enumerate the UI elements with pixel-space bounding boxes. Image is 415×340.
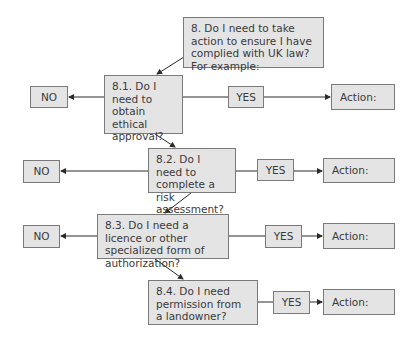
yes-label: YES [274,230,294,243]
yes-box-8-4: YES [273,291,310,314]
yes-label: YES [282,296,302,309]
action-box-8-4: Action: [323,289,395,315]
yes-label: YES [236,91,256,104]
yes-box-8-1: YES [228,86,264,108]
root-question-box: 8. Do I need to take action to ensure I … [183,17,324,68]
question-8-4-box: 8.4. Do I need permission from a landown… [148,280,258,325]
no-label: NO [33,230,49,243]
question-8-3-text: 8.3. Do I need a licence or other specia… [105,219,204,269]
action-label: Action: [332,164,368,177]
question-8-4-text: 8.4. Do I need permission from a landown… [156,285,241,322]
yes-box-8-2: YES [257,159,294,181]
no-box-8-2: NO [23,160,60,183]
action-box-8-1: Action: [331,84,395,110]
no-label: NO [33,165,49,178]
no-box-8-3: NO [23,225,60,248]
action-box-8-3: Action: [323,223,395,249]
question-8-2-box: 8.2. Do I need to complete a risk assess… [148,148,236,193]
no-box-8-1: NO [30,86,68,108]
action-label: Action: [332,230,368,243]
question-8-1-text: 8.1. Do I need to obtain ethical approva… [112,80,163,142]
no-label: NO [41,91,57,104]
question-8-2-text: 8.2. Do I need to complete a risk assess… [156,153,224,215]
action-label: Action: [332,296,368,309]
action-label: Action: [340,91,376,104]
action-box-8-2: Action: [323,158,395,183]
yes-box-8-3: YES [265,225,302,248]
question-8-1-box: 8.1. Do I need to obtain ethical approva… [104,75,183,134]
question-8-3-box: 8.3. Do I need a licence or other specia… [97,214,229,259]
yes-label: YES [266,164,286,177]
root-question-text: 8. Do I need to take action to ensure I … [191,22,312,72]
